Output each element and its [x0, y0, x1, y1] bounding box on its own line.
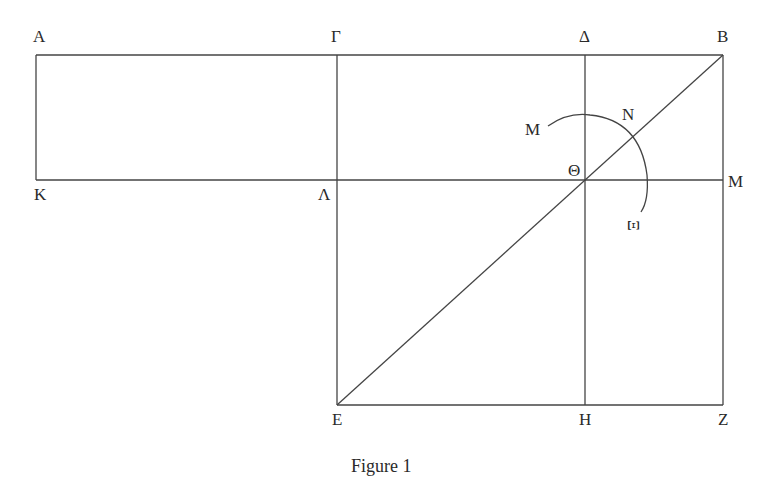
- diagonal-E-B: [337, 55, 723, 405]
- label-B: B: [717, 28, 728, 45]
- label-M-right: M: [728, 173, 743, 190]
- geometric-figure: [0, 0, 769, 493]
- label-E: E: [332, 411, 342, 428]
- label-Xi: Ξ: [625, 220, 642, 231]
- label-H: H: [579, 411, 591, 428]
- label-Gamma: Γ: [331, 28, 341, 45]
- label-A: A: [33, 28, 45, 45]
- label-Z: Z: [718, 411, 728, 428]
- figure-caption: Figure 1: [351, 456, 412, 477]
- label-M-arc: M: [525, 121, 540, 138]
- label-Delta: Δ: [579, 28, 590, 45]
- label-Lambda: Λ: [318, 186, 330, 203]
- label-K: K: [34, 186, 46, 203]
- label-Theta: Θ: [568, 162, 580, 179]
- gnomon-arc: [548, 114, 647, 212]
- label-N: N: [622, 106, 634, 123]
